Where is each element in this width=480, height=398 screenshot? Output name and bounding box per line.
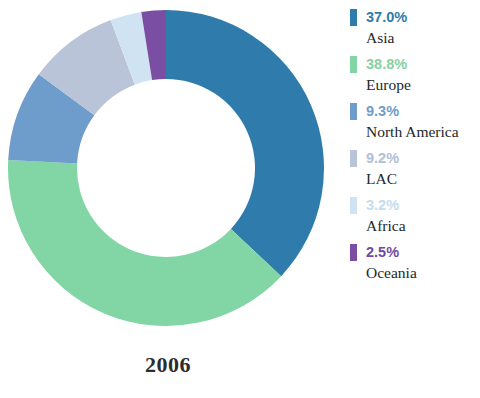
legend-percent-north-america: 9.3% bbox=[366, 103, 399, 120]
legend-label-north-america: North America bbox=[366, 121, 480, 142]
legend-item-oceania[interactable]: 2.5%Oceania bbox=[350, 243, 480, 283]
legend-percent-asia: 37.0% bbox=[366, 9, 407, 26]
donut-chart-figure: 2006 37.0%Asia38.8%Europe9.3%North Ameri… bbox=[0, 0, 480, 398]
legend-swatch-lac bbox=[350, 150, 357, 167]
legend-item-europe[interactable]: 38.8%Europe bbox=[350, 55, 480, 95]
legend-row-africa: 3.2% bbox=[350, 196, 480, 215]
legend-percent-europe: 38.8% bbox=[366, 56, 407, 73]
legend-row-europe: 38.8% bbox=[350, 55, 480, 74]
legend-swatch-europe bbox=[350, 56, 357, 73]
donut-slice-group bbox=[8, 10, 324, 326]
donut-slice-asia[interactable] bbox=[166, 10, 324, 276]
legend-row-oceania: 2.5% bbox=[350, 243, 480, 262]
chart-legend: 37.0%Asia38.8%Europe9.3%North America9.2… bbox=[350, 8, 480, 290]
legend-row-north-america: 9.3% bbox=[350, 102, 480, 121]
legend-item-asia[interactable]: 37.0%Asia bbox=[350, 8, 480, 48]
legend-label-europe: Europe bbox=[366, 74, 480, 95]
donut-chart-svg bbox=[0, 0, 336, 340]
donut-slice-europe[interactable] bbox=[8, 160, 281, 326]
legend-label-lac: LAC bbox=[366, 168, 480, 189]
legend-item-africa[interactable]: 3.2%Africa bbox=[350, 196, 480, 236]
legend-item-north-america[interactable]: 9.3%North America bbox=[350, 102, 480, 142]
legend-swatch-oceania bbox=[350, 244, 357, 261]
legend-row-lac: 9.2% bbox=[350, 149, 480, 168]
chart-area: 2006 bbox=[0, 0, 336, 398]
legend-percent-lac: 9.2% bbox=[366, 150, 399, 167]
legend-swatch-north-america bbox=[350, 103, 357, 120]
legend-label-asia: Asia bbox=[366, 27, 480, 48]
chart-year-label: 2006 bbox=[0, 352, 336, 378]
legend-percent-africa: 3.2% bbox=[366, 197, 399, 214]
legend-swatch-africa bbox=[350, 197, 357, 214]
legend-swatch-asia bbox=[350, 9, 357, 26]
legend-row-asia: 37.0% bbox=[350, 8, 480, 27]
legend-item-lac[interactable]: 9.2%LAC bbox=[350, 149, 480, 189]
legend-label-oceania: Oceania bbox=[366, 262, 480, 283]
legend-percent-oceania: 2.5% bbox=[366, 244, 399, 261]
legend-label-africa: Africa bbox=[366, 215, 480, 236]
